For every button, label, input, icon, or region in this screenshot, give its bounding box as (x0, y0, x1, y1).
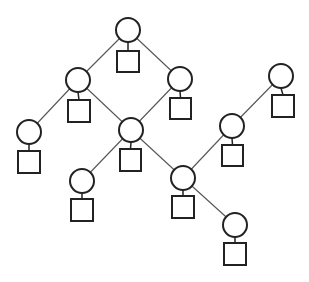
square-node (117, 51, 139, 72)
node-stem (78, 92, 79, 100)
circle-node (269, 64, 293, 88)
circle-node (66, 68, 90, 92)
node-stem (232, 138, 233, 145)
circle-node (116, 18, 140, 42)
square-node (120, 149, 141, 171)
square-node (172, 196, 194, 218)
circle-node (220, 114, 244, 138)
circle-node (168, 67, 192, 91)
node-stem (131, 142, 132, 149)
square-node (71, 199, 93, 221)
square-node (222, 145, 243, 166)
node-E (17, 120, 41, 173)
node-A (116, 18, 140, 72)
node-I (171, 166, 195, 218)
node-D (269, 64, 294, 117)
network-diagram (0, 0, 309, 282)
node-H (70, 169, 94, 221)
square-node (68, 100, 90, 122)
node-J (223, 213, 247, 265)
node-stem (180, 91, 181, 98)
node-B (66, 68, 90, 122)
node-G (220, 114, 244, 166)
square-node (272, 95, 294, 117)
node-stem (281, 88, 283, 95)
square-node (170, 98, 191, 119)
circle-node (223, 213, 247, 237)
circle-node (70, 169, 94, 193)
circle-node (171, 166, 195, 190)
node-C (168, 67, 192, 119)
square-node (18, 151, 40, 173)
node-F (119, 118, 143, 171)
circle-node (17, 120, 41, 144)
circle-node (119, 118, 143, 142)
node-layer (17, 18, 294, 265)
square-node (224, 243, 246, 265)
